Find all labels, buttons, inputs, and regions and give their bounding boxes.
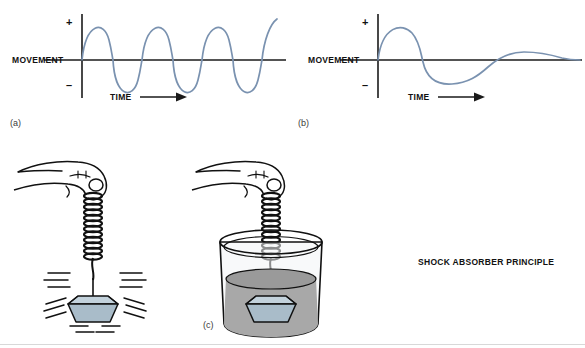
panel-c-illustrations: SHOCK ABSORBER PRINCIPLE (c) [0, 138, 585, 348]
movement-axis-label-b: MOVEMENT [308, 55, 360, 65]
caption-c: (c) [203, 320, 214, 330]
panel-b-damped: MOVEMENT + – TIME (b) [290, 0, 585, 140]
caption-b: (b) [298, 118, 309, 128]
hand-icon-right [192, 161, 284, 199]
caption-a: (a) [10, 118, 21, 128]
minus-sign-b: – [362, 79, 368, 91]
movement-axis-label-a: MOVEMENT [12, 55, 64, 65]
panel-a-undamped: MOVEMENT + – TIME (a) [0, 0, 290, 140]
plus-sign-a: + [66, 16, 72, 28]
bottom-divider [0, 344, 585, 345]
spring-icon-left [84, 193, 102, 296]
weight-block-left [68, 296, 118, 322]
hand-icon-left [14, 161, 106, 199]
waveform-damped [378, 28, 580, 85]
plus-sign-b: + [362, 16, 368, 28]
time-axis-label-b: TIME [408, 92, 430, 102]
spring-mass-in-fluid [192, 161, 322, 337]
panel-b-chart [290, 0, 585, 140]
time-axis-label-a: TIME [110, 92, 132, 102]
fluid-surface [226, 269, 316, 289]
time-arrow-head-a [176, 93, 187, 102]
spring-mass-in-air [14, 161, 146, 332]
panel-c-drawing [0, 138, 585, 348]
time-arrow-head-b [474, 93, 485, 102]
panel-a-chart [0, 0, 290, 140]
weight-block-right [246, 296, 296, 322]
shock-absorber-figure: MOVEMENT + – TIME (a) MOVEMENT + – TIME … [0, 0, 585, 348]
waveform-undamped [82, 19, 277, 93]
shock-absorber-principle-label: SHOCK ABSORBER PRINCIPLE [418, 257, 554, 268]
minus-sign-a: – [66, 79, 72, 91]
